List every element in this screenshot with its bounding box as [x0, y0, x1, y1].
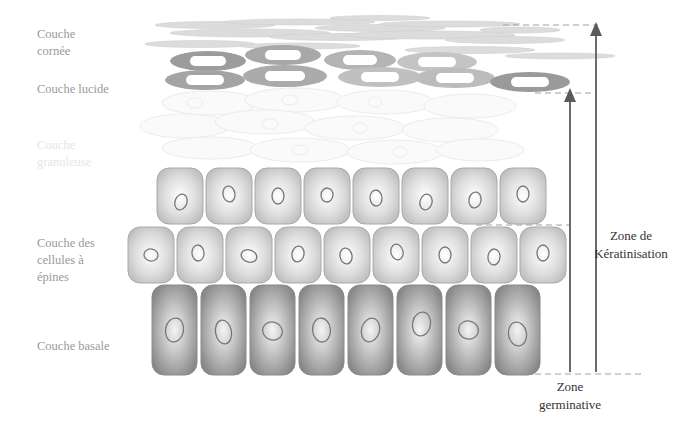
cell	[152, 285, 197, 375]
basal-layer	[152, 285, 540, 375]
cell	[128, 227, 174, 283]
cell	[304, 168, 350, 224]
germinative-arrow	[564, 88, 576, 372]
arrowhead-icon	[564, 88, 576, 102]
cell	[275, 227, 321, 283]
label-zone-germinative: Zone germinative	[525, 378, 615, 414]
cell	[520, 227, 566, 283]
cell	[255, 168, 301, 224]
diagram-canvas	[0, 0, 680, 421]
cell	[397, 285, 442, 375]
keratinization-arrow	[590, 22, 602, 372]
cell	[299, 285, 344, 375]
cell	[206, 168, 252, 224]
cell	[373, 227, 419, 283]
spiny-layer-lower	[128, 227, 566, 283]
label-zone-keratinisation: Zone de Kératinisation	[576, 227, 680, 263]
cell	[348, 285, 393, 375]
label-couche-lucide: Couche lucide	[37, 81, 109, 98]
cell	[177, 227, 223, 283]
cell	[201, 285, 246, 375]
cell	[451, 168, 497, 224]
label-couche-epines: Couche des cellules à épines	[37, 235, 95, 286]
label-couche-granuleuse: Couche granuleuse	[37, 137, 91, 171]
cell	[495, 285, 540, 375]
label-couche-basale: Couche basale	[37, 338, 110, 355]
cell	[500, 168, 546, 224]
cell	[226, 227, 272, 283]
epidermis-diagram: Couche cornée Couche lucide Couche granu…	[0, 0, 680, 421]
label-couche-cornee: Couche cornée	[37, 26, 75, 60]
cell	[422, 227, 468, 283]
cell	[250, 285, 295, 375]
cell	[446, 285, 491, 375]
cell	[402, 168, 448, 224]
cell	[471, 227, 517, 283]
spiny-layer-upper	[157, 168, 546, 224]
granular-layer	[140, 88, 524, 164]
cell	[353, 168, 399, 224]
cell	[157, 168, 203, 224]
arrowhead-icon	[590, 22, 602, 36]
cell	[324, 227, 370, 283]
